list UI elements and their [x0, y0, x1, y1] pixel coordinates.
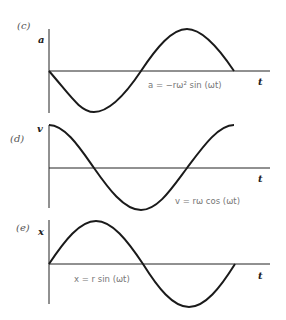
panel-c-equation: a = −rω² sin (ωt) [148, 80, 222, 90]
panel-e-label: (e) [16, 222, 30, 233]
panel-e-equation: x = r sin (ωt) [74, 274, 130, 284]
panel-d-y-label: v [37, 123, 43, 134]
panel-c-y-label: a [38, 34, 44, 45]
plots [0, 0, 286, 320]
panel-c-x-label: t [258, 76, 263, 87]
panel-e-axes [49, 220, 270, 304]
panel-d-label: (d) [10, 133, 24, 144]
panel-d-equation: v = rω cos (ωt) [175, 196, 240, 206]
panel-d-x-label: t [258, 173, 263, 184]
panel-c-label: (c) [17, 20, 30, 31]
panel-e-x-label: t [258, 270, 263, 281]
panel-c-axes [49, 29, 270, 113]
panel-e-y-label: x [38, 226, 44, 237]
